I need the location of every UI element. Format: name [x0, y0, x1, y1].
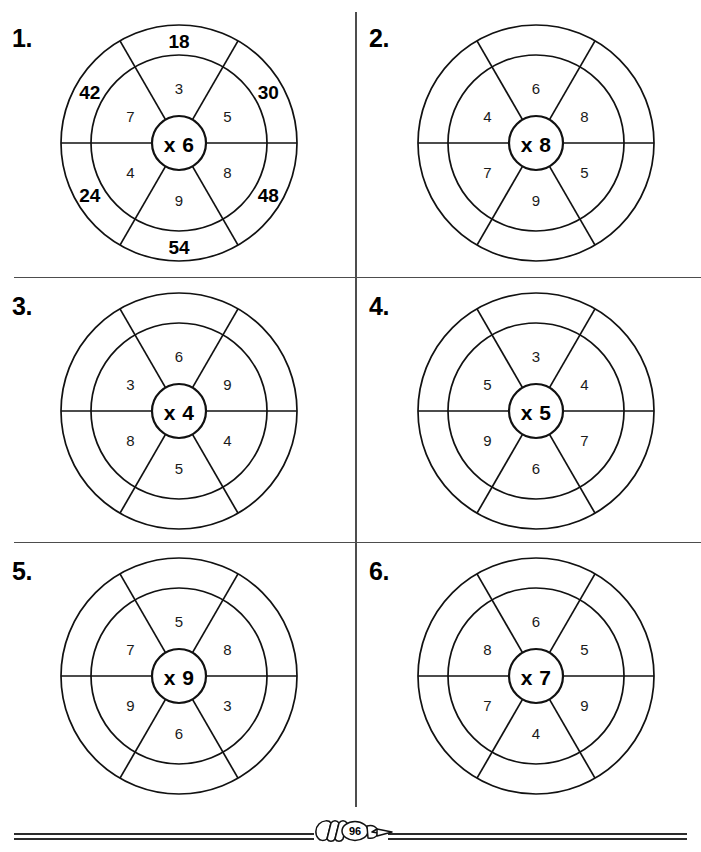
multiplication-wheel: x 5347695 — [411, 286, 661, 536]
problem-3: 3.x 4694583 — [4, 278, 354, 543]
problem-number-label: 6. — [369, 557, 389, 586]
wheel-inner-value[interactable]: 6 — [532, 80, 540, 97]
wheel-inner-value[interactable]: 5 — [580, 641, 588, 658]
wheel-inner-value[interactable]: 3 — [223, 697, 231, 714]
multiplication-wheel: x 7659478 — [411, 551, 661, 801]
wheel-inner-value[interactable]: 9 — [483, 432, 491, 449]
wheel-inner-value[interactable]: 8 — [126, 432, 134, 449]
problem-4: 4.x 5347695 — [361, 278, 701, 543]
wheel-inner-value[interactable]: 3 — [175, 80, 183, 97]
wheel-inner-value[interactable]: 4 — [483, 108, 491, 125]
problem-2: 2.x 8685974 — [361, 10, 701, 275]
wheel-inner-value[interactable]: 5 — [175, 460, 183, 477]
wheel-inner-value[interactable]: 8 — [580, 108, 588, 125]
problem-number-label: 5. — [12, 557, 32, 586]
wheel-inner-value[interactable]: 7 — [580, 432, 588, 449]
wheel-inner-value[interactable]: 8 — [223, 641, 231, 658]
problem-1: 1.x 6318530848954424742 — [4, 10, 354, 275]
wheel-outer-answer[interactable]: 54 — [168, 237, 190, 258]
wheel-inner-value[interactable]: 4 — [532, 725, 540, 742]
multiplication-wheel: x 6318530848954424742 — [54, 18, 304, 268]
wheel-inner-value[interactable]: 6 — [532, 460, 540, 477]
divider-vertical-top — [355, 12, 357, 277]
wheel-outer-answer[interactable]: 48 — [258, 185, 279, 206]
wheel-inner-value[interactable]: 6 — [175, 348, 183, 365]
wheel-inner-value[interactable]: 3 — [532, 348, 540, 365]
wheel-inner-value[interactable]: 6 — [532, 613, 540, 630]
wheel-inner-value[interactable]: 5 — [223, 108, 231, 125]
footer-rule-right-upper — [388, 833, 687, 835]
pencil-icon: 96 — [300, 808, 410, 850]
wheel-hub-label: x 7 — [521, 666, 552, 689]
footer-rule-left-upper — [14, 833, 314, 835]
wheel-inner-value[interactable]: 7 — [126, 641, 134, 658]
wheel-inner-value[interactable]: 8 — [483, 641, 491, 658]
divider-vertical-middle — [355, 277, 357, 542]
wheel-inner-value[interactable]: 4 — [126, 164, 134, 181]
problem-number-label: 2. — [369, 24, 389, 53]
wheel-outer-answer[interactable]: 30 — [258, 82, 279, 103]
page-number-badge: 96 — [300, 808, 410, 850]
page-number-text: 96 — [349, 825, 361, 837]
wheel-inner-value[interactable]: 7 — [483, 164, 491, 181]
multiplication-wheel: x 8685974 — [411, 18, 661, 268]
wheel-outer-answer[interactable]: 42 — [79, 82, 100, 103]
wheel-inner-value[interactable]: 4 — [580, 376, 588, 393]
multiplication-wheel: x 9583697 — [54, 551, 304, 801]
wheel-inner-value[interactable]: 9 — [223, 376, 231, 393]
footer-rule-right-lower — [388, 838, 687, 840]
wheel-hub-label: x 5 — [521, 401, 552, 424]
page-footer: 96 — [0, 804, 701, 852]
wheel-hub-label: x 9 — [164, 666, 195, 689]
footer-rule-left-lower — [14, 838, 314, 840]
wheel-outer-answer[interactable]: 24 — [79, 185, 101, 206]
wheel-inner-value[interactable]: 5 — [175, 613, 183, 630]
problem-6: 6.x 7659478 — [361, 543, 701, 808]
wheel-hub-label: x 8 — [521, 133, 552, 156]
worksheet-page: 1.x 6318530848954424742 2.x 8685974 3.x … — [0, 0, 701, 852]
problem-number-label: 4. — [369, 292, 389, 321]
wheel-inner-value[interactable]: 7 — [126, 108, 134, 125]
wheel-inner-value[interactable]: 9 — [580, 697, 588, 714]
wheel-hub-label: x 4 — [164, 401, 195, 424]
wheel-inner-value[interactable]: 4 — [223, 432, 231, 449]
divider-vertical-bottom — [355, 542, 357, 807]
multiplication-wheel: x 4694583 — [54, 286, 304, 536]
wheel-inner-value[interactable]: 5 — [580, 164, 588, 181]
problem-number-label: 1. — [12, 24, 32, 53]
wheel-inner-value[interactable]: 5 — [483, 376, 491, 393]
wheel-outer-answer[interactable]: 18 — [168, 31, 189, 52]
problem-5: 5.x 9583697 — [4, 543, 354, 808]
wheel-inner-value[interactable]: 8 — [223, 164, 231, 181]
wheel-hub-label: x 6 — [164, 133, 195, 156]
wheel-inner-value[interactable]: 9 — [126, 697, 134, 714]
wheel-inner-value[interactable]: 3 — [126, 376, 134, 393]
wheel-inner-value[interactable]: 6 — [175, 725, 183, 742]
wheel-inner-value[interactable]: 7 — [483, 697, 491, 714]
wheel-inner-value[interactable]: 9 — [175, 192, 183, 209]
problem-number-label: 3. — [12, 292, 32, 321]
wheel-inner-value[interactable]: 9 — [532, 192, 540, 209]
